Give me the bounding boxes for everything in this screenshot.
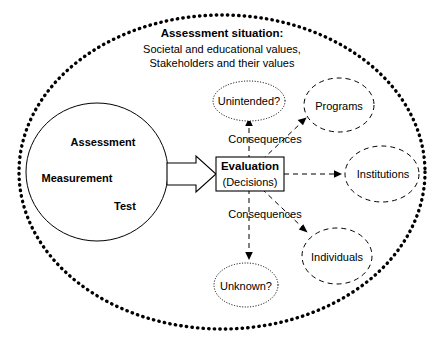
arrowhead-programs-icon (298, 118, 307, 126)
consequences-label-lower: Consequences (228, 208, 301, 221)
node-label-institutions: Institutions (357, 168, 410, 181)
situation-heading: Assessment situation: (161, 27, 284, 41)
arrowhead-individuals-icon (299, 224, 308, 232)
evaluation-subtitle: (Decisions) (222, 176, 277, 189)
node-label-unintended: Unintended? (218, 95, 280, 108)
evaluation-title: Evaluation (221, 160, 279, 174)
consequences-label-upper: Consequences (228, 133, 301, 146)
situation-line-2: Societal and educational values, (143, 43, 301, 56)
source-label-assessment: Assessment (71, 136, 136, 149)
source-label-measurement: Measurement (42, 172, 113, 185)
source-label-test: Test (114, 200, 136, 213)
block-arrow-to-evaluation (167, 156, 216, 192)
arrowhead-institutions-icon (334, 170, 342, 178)
assessment-evaluation-diagram: Assessment situation: Societal and educa… (0, 0, 441, 351)
situation-line-3: Stakeholders and their values (150, 57, 295, 70)
node-label-individuals: Individuals (311, 251, 363, 264)
node-label-programs: Programs (315, 100, 363, 113)
node-label-unknown: Unknown? (220, 280, 272, 293)
arrowhead-unknown-icon (245, 252, 253, 260)
